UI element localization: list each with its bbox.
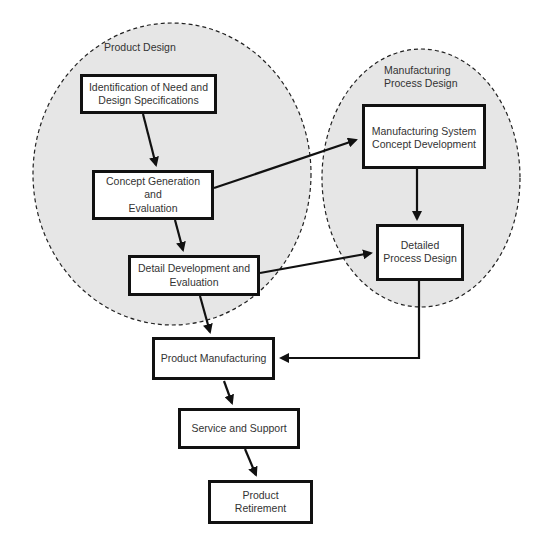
node-concept-generation: Concept Generation and Evaluation (92, 170, 214, 220)
node-text-line2: Evaluation (99, 202, 207, 215)
node-text-line1: Product Manufacturing (161, 352, 267, 365)
node-text-line1: Manufacturing System (372, 125, 476, 138)
node-text-line1: Product (235, 489, 286, 502)
node-mfg-system-concept: Manufacturing System Concept Development (362, 104, 486, 169)
node-text-line2: Design Specifications (89, 94, 208, 107)
node-identification-of-need: Identification of Need and Design Specif… (80, 74, 217, 114)
group-label-text: Product Design (104, 41, 176, 53)
node-text-line1: Identification of Need and (89, 81, 208, 94)
node-text-line2: Evaluation (138, 276, 250, 289)
node-text-line1: Concept Generation and (99, 175, 207, 201)
group-label-manufacturing-process-design: Manufacturing Process Design (384, 64, 458, 90)
node-text-line2: Concept Development (372, 138, 476, 151)
node-text-line1: Detail Development and (138, 262, 250, 275)
node-service-and-support: Service and Support (178, 408, 300, 449)
node-text-line1: Detailed (383, 239, 457, 252)
node-detail-development: Detail Development and Evaluation (128, 255, 260, 296)
node-text-line2: Retirement (235, 502, 286, 515)
arrow-manufacturing-to-service (224, 381, 232, 403)
group-label-text-line1: Manufacturing (384, 64, 458, 77)
node-text-line1: Service and Support (191, 422, 286, 435)
group-label-product-design: Product Design (104, 41, 176, 54)
node-product-retirement: Product Retirement (208, 480, 313, 524)
group-label-text-line2: Process Design (384, 77, 458, 90)
arrow-service-to-retirement (245, 449, 256, 475)
node-detailed-process-design: Detailed Process Design (376, 224, 464, 281)
node-text-line2: Process Design (383, 252, 457, 265)
node-product-manufacturing: Product Manufacturing (152, 337, 275, 380)
